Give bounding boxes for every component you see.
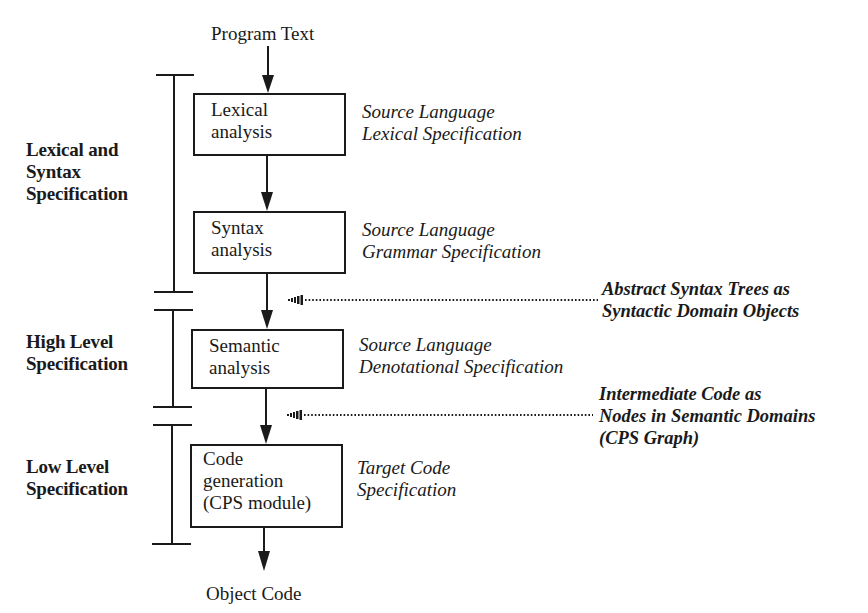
- stage-label-line: generation: [203, 470, 341, 492]
- spec-grammar: Source Language Grammar Specification: [362, 219, 541, 263]
- phase-line: Specification: [26, 183, 128, 205]
- phase-line: Specification: [26, 478, 128, 500]
- compiler-pipeline-diagram: Program Text Object Code Lexical analysi…: [0, 0, 868, 613]
- repr-abstract-syntax-trees: Abstract Syntax Trees as Syntactic Domai…: [602, 278, 799, 322]
- phase-label-high-level: High Level Specification: [26, 331, 128, 375]
- repr-line: Syntactic Domain Objects: [602, 300, 799, 322]
- input-label: Program Text: [211, 23, 314, 44]
- spec-line: Target Code: [357, 457, 456, 479]
- phase-brackets: [152, 75, 194, 544]
- stage-label-line: Semantic: [209, 335, 342, 357]
- repr-line: Nodes in Semantic Domains: [599, 405, 815, 427]
- phase-line: Syntax: [26, 161, 128, 183]
- stage-label-line: Syntax: [211, 217, 344, 239]
- stage-box-code-generation: Code generation (CPS module): [190, 444, 343, 528]
- spec-line: Source Language: [362, 219, 541, 241]
- phase-line: Low Level: [26, 456, 128, 478]
- stage-label-line: Code: [203, 448, 341, 470]
- phase-line: Lexical and: [26, 139, 128, 161]
- stage-box-syntax-analysis: Syntax analysis: [193, 211, 346, 274]
- spec-target-code: Target Code Specification: [357, 457, 456, 501]
- phase-line: Specification: [26, 353, 128, 375]
- stage-label-line: analysis: [211, 121, 344, 143]
- stage-label-line: analysis: [209, 357, 342, 379]
- repr-line: Abstract Syntax Trees as: [602, 278, 799, 300]
- stage-box-semantic-analysis: Semantic analysis: [191, 329, 344, 389]
- phase-line: High Level: [26, 331, 128, 353]
- spec-line: Lexical Specification: [362, 123, 522, 145]
- phase-label-lexical-syntax: Lexical and Syntax Specification: [26, 139, 128, 205]
- phase-label-low-level: Low Level Specification: [26, 456, 128, 500]
- output-label: Object Code: [206, 583, 302, 604]
- repr-line: Intermediate Code as: [599, 383, 815, 405]
- dotted-connector-ast: [288, 295, 598, 305]
- spec-lexical: Source Language Lexical Specification: [362, 101, 522, 145]
- spec-line: Specification: [357, 479, 456, 501]
- repr-intermediate-code: Intermediate Code as Nodes in Semantic D…: [599, 383, 815, 449]
- spec-line: Grammar Specification: [362, 241, 541, 263]
- stage-box-lexical-analysis: Lexical analysis: [193, 93, 346, 156]
- stage-label-line: (CPS module): [203, 492, 341, 514]
- spec-denotational: Source Language Denotational Specificati…: [359, 334, 563, 378]
- repr-line: (CPS Graph): [599, 427, 815, 449]
- spec-line: Denotational Specification: [359, 356, 563, 378]
- spec-line: Source Language: [359, 334, 563, 356]
- dotted-connector-intermediate: [287, 410, 593, 420]
- stage-label-line: Lexical: [211, 99, 344, 121]
- stage-label-line: analysis: [211, 239, 344, 261]
- spec-line: Source Language: [362, 101, 522, 123]
